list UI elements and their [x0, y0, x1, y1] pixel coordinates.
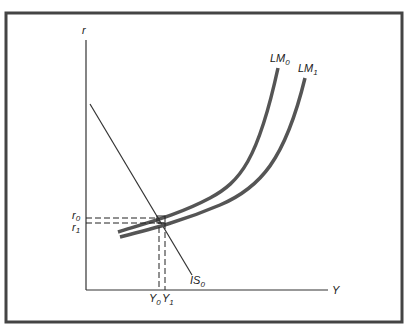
y1-label: Y1	[162, 292, 174, 307]
lm0-curve	[118, 68, 278, 232]
frame	[6, 13, 402, 322]
is-lm-diagram: r Y IS0 LM0 LM1 r0 r1 Y0 Y1	[0, 0, 407, 330]
is0-label: IS0	[190, 274, 205, 289]
r1-label: r1	[72, 221, 80, 235]
y-axis-label: r	[82, 24, 87, 36]
lm1-curve	[120, 78, 305, 237]
y0-label: Y0	[149, 292, 161, 307]
is0-curve	[90, 104, 192, 275]
lm0-label: LM0	[270, 52, 290, 67]
lm1-label: LM1	[298, 62, 318, 77]
x-axis-label: Y	[332, 284, 340, 296]
